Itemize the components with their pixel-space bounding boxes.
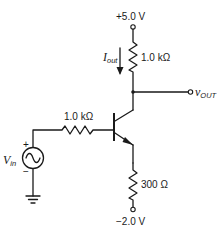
negative-supply-terminal [131, 207, 135, 211]
source-plus-label: + [23, 139, 29, 150]
output-label: vOUT [195, 85, 218, 100]
source-minus-label: − [23, 166, 29, 177]
source-label: Vin [3, 153, 16, 168]
emitter-resistor [129, 163, 137, 207]
npn-transistor-icon [114, 92, 133, 163]
collector-resistor-label: 1.0 kΩ [141, 52, 171, 63]
base-resistor-label: 1.0 kΩ [64, 111, 94, 122]
base-resistor [33, 126, 114, 147]
positive-supply-label: +5.0 V [116, 11, 146, 22]
emitter-resistor-label: 300 Ω [141, 179, 168, 190]
current-arrow-icon [117, 48, 124, 75]
circuit-diagram: +5.0 V 1.0 kΩ Iout vOUT 1.0 kΩ + − Vin [0, 0, 224, 234]
output-terminal [188, 90, 192, 94]
current-label: Iout [102, 50, 118, 65]
collector-resistor [129, 29, 137, 92]
negative-supply-label: −2.0 V [116, 216, 146, 227]
